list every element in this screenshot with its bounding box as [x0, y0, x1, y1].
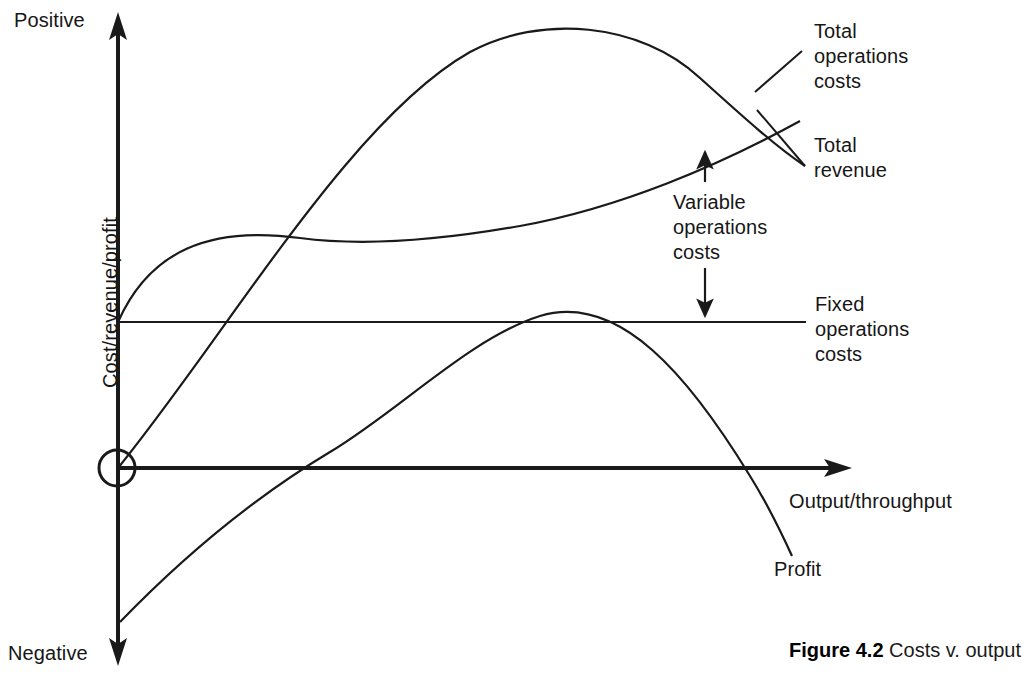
- axis-label-y: Cost/revenue/profit: [98, 188, 123, 418]
- figure-container: Positive Negative Cost/revenue/profit Ou…: [0, 0, 1033, 678]
- annotation-total-revenue: Total revenue: [814, 133, 887, 183]
- leader-line-total-operations-costs: [755, 51, 802, 92]
- annotation-variable-operations-costs: Variable operations costs: [673, 190, 767, 265]
- axis-label-positive: Positive: [14, 8, 85, 33]
- figure-caption-text: Costs v. output: [884, 639, 1021, 661]
- figure-caption-number: Figure 4.2: [789, 639, 883, 661]
- annotation-profit: Profit: [774, 557, 821, 582]
- axis-label-x: Output/throughput: [789, 489, 952, 514]
- annotation-total-operations-costs: Total operations costs: [814, 19, 908, 94]
- leader-line-total-revenue: [757, 110, 805, 166]
- figure-caption: Figure 4.2 Costs v. output: [0, 639, 1021, 662]
- annotation-fixed-operations-costs: Fixed operations costs: [815, 292, 909, 367]
